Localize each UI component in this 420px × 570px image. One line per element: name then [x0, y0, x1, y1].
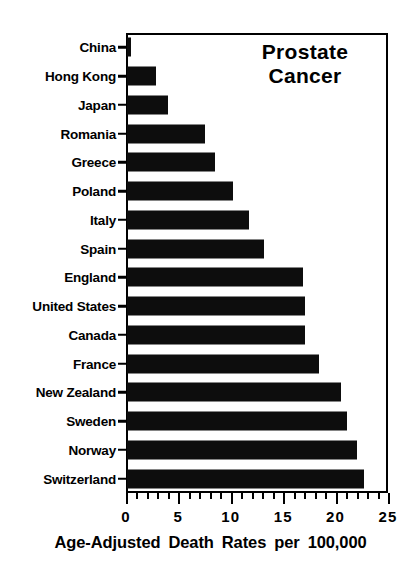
x-axis-minor-tick [367, 493, 369, 499]
bar-england [127, 268, 303, 287]
caption-word: Death [168, 533, 213, 551]
bar-row: China [0, 33, 420, 62]
x-tick-label-25: 25 [378, 508, 397, 525]
bar-romania [127, 124, 205, 143]
bar-italy [127, 210, 249, 229]
bar-poland [127, 182, 233, 201]
x-axis-minor-tick [210, 493, 212, 499]
bar-japan [127, 95, 168, 114]
prostate-cancer-bar-chart: Prostate Cancer ChinaHong KongJapanRoman… [0, 0, 420, 570]
x-axis-minor-tick [273, 493, 275, 499]
x-axis-minor-tick [262, 493, 264, 499]
bar-row: England [0, 263, 420, 292]
bar-row: Spain [0, 234, 420, 263]
bar-switzerland [127, 469, 364, 488]
bar-new-zealand [127, 383, 341, 402]
x-axis-major-tick [231, 493, 233, 504]
bar-canada [127, 325, 305, 344]
category-label-sweden: Sweden [66, 414, 116, 429]
x-tick-label-5: 5 [174, 508, 184, 525]
x-axis-minor-tick [136, 493, 138, 499]
x-tick-label-0: 0 [121, 508, 131, 525]
x-axis-major-tick [126, 493, 128, 504]
bar-hong-kong [127, 67, 156, 86]
bar-greece [127, 153, 215, 172]
category-label-norway: Norway [68, 442, 116, 457]
bar-row: Norway [0, 436, 420, 465]
x-tick-label-20: 20 [326, 508, 345, 525]
caption-word: Age-Adjusted [54, 533, 160, 551]
bar-row: Greece [0, 148, 420, 177]
bar-row: Sweden [0, 407, 420, 436]
x-axis-minor-tick [315, 493, 317, 499]
x-axis-minor-tick [378, 493, 380, 499]
bar-row: Italy [0, 206, 420, 235]
bar-france [127, 354, 319, 373]
x-axis-major-tick [388, 493, 390, 504]
category-label-spain: Spain [80, 241, 116, 256]
bar-row: Canada [0, 321, 420, 350]
category-label-england: England [64, 270, 116, 285]
x-axis-minor-tick [189, 493, 191, 499]
category-label-greece: Greece [71, 155, 116, 170]
category-label-japan: Japan [78, 97, 116, 112]
category-label-china: China [79, 40, 116, 55]
bar-row: New Zealand [0, 378, 420, 407]
bar-china [127, 38, 131, 57]
category-label-hong-kong: Hong Kong [45, 69, 116, 84]
x-axis-minor-tick [241, 493, 243, 499]
category-label-switzerland: Switzerland [43, 471, 116, 486]
x-tick-label-15: 15 [274, 508, 293, 525]
bar-row: Switzerland [0, 464, 420, 493]
caption-word: Rates [222, 533, 266, 551]
category-label-united-states: United States [32, 299, 116, 314]
x-axis-minor-tick [325, 493, 327, 499]
bar-row: Romania [0, 119, 420, 148]
category-label-france: France [73, 356, 116, 371]
bar-spain [127, 239, 264, 258]
x-axis-minor-tick [252, 493, 254, 499]
x-axis-major-tick [178, 493, 180, 504]
x-axis-major-tick [283, 493, 285, 504]
caption-word: 100,000 [308, 533, 367, 551]
x-axis-minor-tick [346, 493, 348, 499]
x-axis-minor-tick [168, 493, 170, 499]
bar-row: Hong Kong [0, 62, 420, 91]
x-axis-tick-labels: 0510152025 [0, 508, 420, 530]
x-axis-minor-tick [357, 493, 359, 499]
bar-row: France [0, 349, 420, 378]
x-axis [126, 493, 388, 494]
bar-sweden [127, 412, 347, 431]
category-label-romania: Romania [60, 126, 116, 141]
bar-norway [127, 440, 357, 459]
x-axis-minor-tick [157, 493, 159, 499]
x-axis-major-tick [336, 493, 338, 504]
x-axis-minor-tick [199, 493, 201, 499]
x-axis-minor-tick [220, 493, 222, 499]
x-axis-minor-tick [147, 493, 149, 499]
bar-united-states [127, 297, 305, 316]
bar-row: Japan [0, 91, 420, 120]
caption-word: per [274, 533, 299, 551]
category-label-new-zealand: New Zealand [36, 385, 116, 400]
category-label-italy: Italy [90, 212, 116, 227]
x-axis-minor-tick [304, 493, 306, 499]
x-axis-caption: Age-AdjustedDeathRatesper100,000 [0, 533, 420, 552]
bar-row: United States [0, 292, 420, 321]
x-tick-label-10: 10 [221, 508, 240, 525]
bar-rows: ChinaHong KongJapanRomaniaGreecePolandIt… [0, 33, 420, 493]
category-label-canada: Canada [68, 327, 116, 342]
category-label-poland: Poland [72, 184, 116, 199]
x-axis-minor-tick [294, 493, 296, 499]
bar-row: Poland [0, 177, 420, 206]
